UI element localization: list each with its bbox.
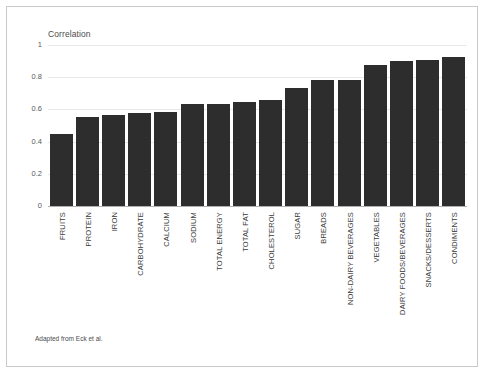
- bar: [416, 60, 439, 206]
- bar-slot: [364, 45, 387, 206]
- bar-slot: [233, 45, 256, 206]
- x-label-slot: CARBOHYDRATE: [128, 210, 151, 328]
- bar: [442, 57, 465, 206]
- bar: [154, 112, 177, 206]
- x-label-slot: DAIRY FOODS/BEVERAGES: [390, 210, 413, 328]
- x-tick-label: CONDIMENTS: [450, 212, 459, 264]
- bar-slot: [128, 45, 151, 206]
- y-tick-label: 1: [12, 41, 42, 49]
- bar-slot: [259, 45, 282, 206]
- x-tick-label: DAIRY FOODS/BEVERAGES: [398, 212, 407, 315]
- x-label-slot: CHOLESTEROL: [259, 210, 282, 328]
- bar-slot: [285, 45, 308, 206]
- bar: [102, 115, 125, 206]
- bar-slot: [50, 45, 73, 206]
- bar-slot: [76, 45, 99, 206]
- x-label-slot: TOTAL FAT: [233, 210, 256, 328]
- x-label-slot: TOTAL ENERGY: [207, 210, 230, 328]
- x-tick-label: VEGETABLES: [372, 212, 381, 263]
- x-label-slot: CALCIUM: [154, 210, 177, 328]
- y-tick-label: 0: [12, 202, 42, 210]
- x-label-slot: SUGAR: [285, 210, 308, 328]
- bar-series: [48, 45, 467, 206]
- bar-slot: [390, 45, 413, 206]
- x-label-slot: SNACKS/DESSERTS: [416, 210, 439, 328]
- x-label-slot: VEGETABLES: [364, 210, 387, 328]
- y-tick-label: 0.6: [12, 105, 42, 113]
- bar-slot: [102, 45, 125, 206]
- x-tick-label: SODIUM: [189, 212, 198, 243]
- bar-slot: [311, 45, 334, 206]
- x-label-slot: CONDIMENTS: [442, 210, 465, 328]
- bar: [233, 102, 256, 206]
- x-label-slot: SODIUM: [181, 210, 204, 328]
- y-tick-label: 0.8: [12, 73, 42, 81]
- chart-title: Correlation: [48, 29, 91, 39]
- x-label-slot: BREADS: [311, 210, 334, 328]
- x-label-slot: IRON: [102, 210, 125, 328]
- bar-slot: [154, 45, 177, 206]
- figure-frame: Correlation 00.20.40.60.81 FRUITSPROTEIN…: [6, 6, 478, 367]
- bar: [364, 65, 387, 206]
- bar-slot: [338, 45, 361, 206]
- x-tick-label: NON-DAIRY BEVERAGES: [346, 212, 355, 305]
- x-tick-label: IRON: [110, 212, 119, 231]
- bar: [207, 104, 230, 206]
- bar: [311, 80, 334, 206]
- x-tick-label: CARBOHYDRATE: [136, 212, 145, 276]
- bar: [338, 80, 361, 206]
- bar: [181, 104, 204, 206]
- x-tick-label: BREADS: [319, 212, 328, 244]
- x-tick-label: TOTAL FAT: [241, 212, 250, 252]
- x-tick-label: FRUITS: [58, 212, 67, 240]
- figure-caption: Adapted from Eck et al.: [35, 335, 103, 342]
- bar: [390, 61, 413, 206]
- x-axis-line: [48, 206, 467, 207]
- x-label-slot: FRUITS: [50, 210, 73, 328]
- x-axis-labels: FRUITSPROTEINIRONCARBOHYDRATECALCIUMSODI…: [48, 210, 467, 330]
- bar: [128, 113, 151, 206]
- bar-slot: [207, 45, 230, 206]
- y-tick-label: 0.4: [12, 138, 42, 146]
- x-tick-label: SNACKS/DESSERTS: [424, 212, 433, 287]
- x-label-slot: NON-DAIRY BEVERAGES: [338, 210, 361, 328]
- x-tick-label: CHOLESTEROL: [267, 212, 276, 270]
- x-tick-label: PROTEIN: [84, 212, 93, 246]
- x-tick-label: TOTAL ENERGY: [215, 212, 224, 271]
- bar-slot: [416, 45, 439, 206]
- x-label-slot: PROTEIN: [76, 210, 99, 328]
- bar-slot: [181, 45, 204, 206]
- y-tick-label: 0.2: [12, 170, 42, 178]
- x-tick-label: SUGAR: [293, 212, 302, 239]
- x-tick-label: CALCIUM: [162, 212, 171, 247]
- bar: [285, 88, 308, 206]
- bar: [259, 100, 282, 206]
- bar-chart: Correlation 00.20.40.60.81 FRUITSPROTEIN…: [7, 7, 479, 368]
- bar-slot: [442, 45, 465, 206]
- bar: [76, 117, 99, 206]
- bar: [50, 134, 73, 206]
